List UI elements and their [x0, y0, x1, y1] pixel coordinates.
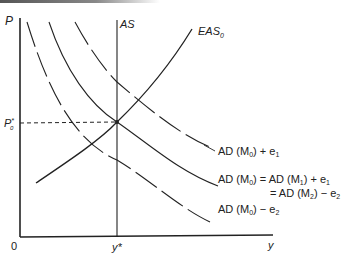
- y-axis-label: P: [5, 14, 13, 28]
- x-tick-label-ystar: y*: [111, 241, 123, 253]
- ad-lower-leader: [204, 209, 215, 218]
- ad-middle-curve: [49, 22, 218, 186]
- equilibrium-point: [115, 120, 119, 124]
- ad-middle-label-line1: AD (M0) = AD (M1) + e1: [218, 173, 330, 186]
- aggregate-supply-demand-diagram: P 0 y* y P*0 AS EAS0 AD (M0) + e1 AD (M0…: [0, 0, 346, 260]
- ad-upper-curve: [75, 22, 212, 148]
- ad-upper-leader: [204, 145, 215, 151]
- p0-star-label: P*0: [4, 117, 14, 131]
- p0-guide-line: [20, 122, 117, 123]
- ad-lower-label: AD (M0) − e2: [218, 203, 279, 216]
- eas-label: EAS0: [198, 25, 224, 39]
- x-axis-label: y: [267, 239, 275, 251]
- ad-upper-label: AD (M0) + e1: [218, 145, 279, 158]
- ad-middle-label-line2: = AD (M2) − e2: [270, 187, 340, 200]
- as-label: AS: [119, 18, 135, 30]
- x-axis: [20, 235, 273, 237]
- origin-label: 0: [11, 240, 17, 252]
